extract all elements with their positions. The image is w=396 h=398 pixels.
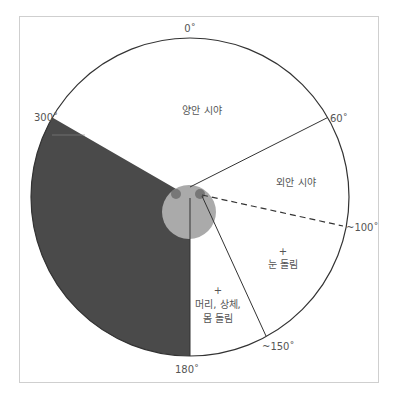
angle-label-0: 0˚: [184, 23, 195, 34]
angle-label-60: 60˚: [330, 113, 348, 124]
body-turn-plus: +: [214, 285, 222, 296]
angle-label-180: 180˚: [175, 364, 199, 375]
blind-sector: [31, 118, 190, 357]
right-eye-icon: [195, 189, 205, 199]
body-turn-label-line2: 몸 돌림: [203, 313, 233, 324]
eye-turn-plus: +: [279, 246, 287, 257]
angle-label-100: ~100˚: [346, 222, 378, 233]
line-100-dashed: [202, 195, 343, 226]
head-circle: [162, 185, 216, 239]
body-turn-label-line1: 머리, 상체,: [195, 299, 241, 310]
monocular-field-label: 외안 시야: [276, 177, 315, 188]
binocular-field-label: 양안 시야: [182, 105, 221, 116]
eye-turn-label: 눈 돌림: [268, 259, 298, 270]
left-eye-icon: [171, 189, 181, 199]
angle-label-300: 300˚: [34, 112, 58, 123]
visual-field-diagram: 0˚ 60˚ ~100˚ ~150˚ 180˚ 300˚ 양안 시야 외안 시야…: [0, 0, 396, 398]
angle-label-150: ~150˚: [262, 341, 294, 352]
